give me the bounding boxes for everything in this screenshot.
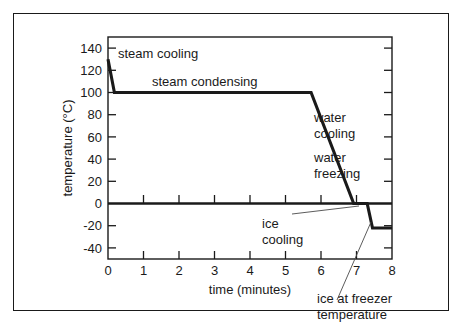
x-tick-label-2: 2: [175, 263, 182, 278]
annotation-ice-cooling-line1: ice: [262, 216, 279, 231]
y-tick-label-0: 0: [95, 196, 102, 211]
ice-at-freezer-leader-line: [337, 222, 371, 300]
annotation-ice-at-freezer-line1: ice at freezer: [317, 291, 393, 306]
plot-box: [108, 37, 392, 259]
x-tick-label-5: 5: [282, 263, 289, 278]
x-tick-label-6: 6: [317, 263, 324, 278]
y-tick-label-60: 60: [88, 130, 102, 145]
annotation-steam-condensing: steam condensing: [152, 74, 258, 89]
annotation-water-freezing-line1: water: [313, 150, 346, 165]
annotation-water-cooling-line1: water: [313, 110, 346, 125]
x-tick-label-7: 7: [353, 263, 360, 278]
y-tick-label-140: 140: [80, 41, 102, 56]
y-tick-labels: 140 120 100 80 60 40 20 0 -20 -40: [80, 41, 102, 256]
annotation-ice-cooling-line2: cooling: [262, 232, 303, 247]
y-axis-right-ticks: [384, 48, 392, 248]
x-axis-ticks-bottom: [144, 251, 357, 259]
annotation-ice-at-freezer-line2: temperature: [317, 307, 387, 322]
annotation-water-cooling-line2: cooling: [314, 126, 355, 141]
x-tick-label-3: 3: [211, 263, 218, 278]
x-tick-label-0: 0: [104, 263, 111, 278]
y-tick-label-minus40: -40: [83, 241, 102, 256]
y-tick-label-40: 40: [88, 152, 102, 167]
x-tick-label-4: 4: [246, 263, 253, 278]
y-tick-label-minus20: -20: [83, 218, 102, 233]
annotation-steam-cooling: steam cooling: [118, 46, 198, 61]
x-tick-label-8: 8: [388, 263, 395, 278]
cooling-curve-chart: 140 120 100 80 60 40 20 0 -20 -40 0 1 2 …: [0, 0, 464, 326]
figure-root: 140 120 100 80 60 40 20 0 -20 -40 0 1 2 …: [0, 0, 464, 326]
y-tick-label-100: 100: [80, 85, 102, 100]
x-axis-title: time (minutes): [209, 282, 291, 297]
annotation-water-freezing-line2: freezing: [314, 166, 360, 181]
plot-spines: [108, 37, 392, 259]
y-tick-label-120: 120: [80, 63, 102, 78]
y-tick-label-80: 80: [88, 107, 102, 122]
y-tick-label-20: 20: [88, 174, 102, 189]
y-axis-title: temperature (°C): [60, 100, 75, 197]
x-tick-label-1: 1: [140, 263, 147, 278]
ice-cooling-leader-line: [292, 206, 359, 214]
